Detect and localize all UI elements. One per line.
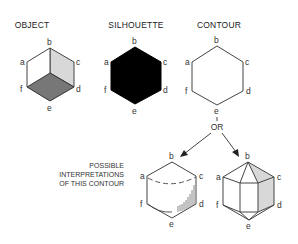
- vertex-label-a: a: [185, 57, 190, 67]
- vertex-label-a: a: [104, 57, 109, 67]
- vertex-label-e: e: [246, 221, 251, 231]
- arrow-left-head-icon: [180, 150, 188, 157]
- vertex-label-a: a: [216, 172, 221, 182]
- contour-shape: [192, 46, 243, 105]
- silhouette-shape: [111, 47, 161, 104]
- vertex-label-c: c: [277, 172, 282, 182]
- title-contour: CONTOUR: [197, 20, 241, 30]
- vertex-label-e: e: [47, 103, 52, 113]
- arrows: [180, 133, 239, 157]
- vertex-label-d: d: [76, 84, 81, 94]
- contour-hexagon: a b c d e f OR: [185, 35, 251, 132]
- caption-line-2: INTERPRETATIONS: [59, 171, 124, 178]
- caption-line-3: OF THIS CONTOUR: [59, 180, 124, 187]
- vertex-label-a: a: [140, 171, 145, 181]
- vertex-label-f: f: [104, 85, 107, 95]
- curved-top-arc: [148, 177, 196, 184]
- vertex-label-b: b: [132, 36, 137, 46]
- interpretation-curved: a b c d e f: [140, 151, 204, 229]
- vertex-label-d: d: [163, 85, 168, 95]
- interpretation-crystal: a b c d e f: [216, 151, 282, 231]
- vertex-label-f: f: [20, 84, 23, 94]
- vertex-label-c: c: [199, 171, 204, 181]
- caption: POSSIBLE INTERPRETATIONS OF THIS CONTOUR: [59, 162, 124, 187]
- vertex-label-c: c: [76, 57, 81, 67]
- arrow-left: [184, 133, 211, 154]
- title-silhouette: SILHOUETTE: [108, 20, 164, 30]
- vertex-label-e: e: [132, 106, 137, 116]
- caption-line-1: POSSIBLE: [89, 162, 124, 169]
- vertex-label-d: d: [199, 199, 204, 209]
- vertex-label-b: b: [169, 151, 174, 161]
- arrow-right-head-icon: [232, 149, 239, 157]
- or-label: OR: [211, 122, 224, 132]
- vertex-label-e: e: [169, 219, 174, 229]
- vertex-label-f: f: [216, 200, 219, 210]
- vertex-label-c: c: [245, 57, 250, 67]
- vertex-label-a: a: [20, 57, 25, 67]
- vertex-label-e: e: [214, 106, 219, 116]
- arrow-right: [222, 133, 236, 152]
- vertex-label-b: b: [245, 151, 250, 161]
- vertex-label-f: f: [185, 86, 188, 96]
- silhouette-hexagon: a b c d e f: [104, 36, 168, 116]
- title-object: OBJECT: [15, 20, 50, 30]
- perception-diagram: OBJECT SILHOUETTE CONTOUR a b c d e f a …: [0, 0, 298, 244]
- vertex-label-f: f: [140, 199, 143, 209]
- vertex-label-d: d: [277, 200, 282, 210]
- object-cube: a b c d e f: [20, 37, 81, 113]
- vertex-label-c: c: [163, 57, 168, 67]
- curved-hatching: [178, 185, 194, 212]
- curved-bottom-arc: [148, 204, 172, 212]
- vertex-label-b: b: [47, 37, 52, 47]
- curved-outline: [147, 162, 196, 218]
- vertex-label-b: b: [214, 35, 219, 45]
- vertex-label-d: d: [246, 86, 251, 96]
